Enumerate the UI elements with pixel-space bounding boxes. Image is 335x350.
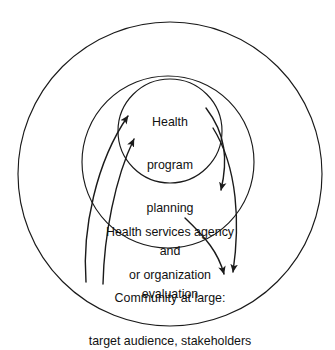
diagram-root: Health program planning and evaluation H…: [0, 0, 335, 350]
label-outer-community: Community at large: target audience, sta…: [62, 262, 278, 350]
label-inner-line-2: program: [118, 158, 222, 172]
label-middle-line-1: Health services agency: [78, 225, 262, 239]
label-outer-line-2: target audience, stakeholders: [62, 334, 278, 348]
label-outer-line-1: Community at large:: [62, 291, 278, 305]
label-inner-line-1: Health: [118, 115, 222, 129]
